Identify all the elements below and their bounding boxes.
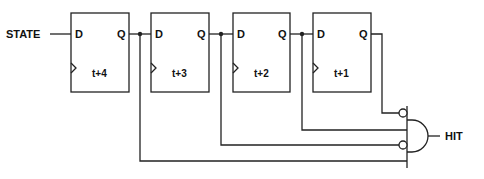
flipflop-t2-box bbox=[233, 13, 290, 92]
hit-label: HIT bbox=[445, 130, 463, 142]
shift-register-diagram: STATE HIT D Q t+4 D Q t+3 D Q t+2 D Q t+… bbox=[0, 0, 484, 179]
wire-tap-t3-gate bbox=[221, 34, 400, 145]
flipflop-t1-box bbox=[313, 13, 371, 92]
and-gate-body bbox=[407, 120, 428, 152]
q-label: Q bbox=[278, 28, 287, 40]
clock-icon bbox=[71, 63, 76, 73]
state-label: STATE bbox=[6, 28, 40, 40]
q-label: Q bbox=[197, 28, 206, 40]
wire-tap-t2-gate bbox=[302, 34, 407, 130]
q-label: Q bbox=[117, 28, 126, 40]
clock-icon bbox=[233, 63, 238, 73]
time-label: t+4 bbox=[92, 68, 107, 79]
d-label: D bbox=[237, 28, 245, 40]
junction-dot bbox=[138, 32, 142, 36]
junction-dot bbox=[300, 32, 304, 36]
inverter-bubble-icon bbox=[399, 141, 407, 149]
junction-dot bbox=[219, 32, 223, 36]
q-label: Q bbox=[359, 28, 368, 40]
time-label: t+3 bbox=[172, 68, 187, 79]
flipflop-t4-box bbox=[71, 13, 129, 92]
d-label: D bbox=[155, 28, 163, 40]
wire-q1-gate bbox=[371, 34, 400, 113]
time-label: t+1 bbox=[334, 68, 349, 79]
wire-tap-t4-gate bbox=[140, 34, 407, 161]
clock-icon bbox=[151, 63, 156, 73]
time-label: t+2 bbox=[254, 68, 269, 79]
d-label: D bbox=[75, 28, 83, 40]
flipflop-t3-box bbox=[151, 13, 209, 92]
d-label: D bbox=[317, 28, 325, 40]
inverter-bubble-icon bbox=[399, 109, 407, 117]
clock-icon bbox=[313, 63, 318, 73]
